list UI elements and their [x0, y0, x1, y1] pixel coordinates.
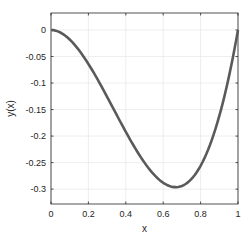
x-tick-label: 0.2 [82, 209, 95, 219]
y-tick-label: -0.2 [30, 131, 46, 141]
x-axis-label: x [142, 223, 147, 234]
x-tick-label: 0.8 [194, 209, 207, 219]
x-tick-label: 1 [235, 209, 240, 219]
x-tick-label: 0.6 [157, 209, 170, 219]
x-tick-label: 0 [48, 209, 53, 219]
y-tick-label: -0.05 [25, 52, 46, 62]
y-tick-label: 0 [41, 25, 46, 35]
y-tick-label: -0.3 [30, 184, 46, 194]
x-tick-label: 0.4 [120, 209, 133, 219]
y-axis-label: y(x) [5, 100, 16, 117]
y-tick-label: -0.15 [25, 105, 46, 115]
y-tick-label: -0.1 [30, 78, 46, 88]
line-chart: 00.20.40.60.810-0.05-0.1-0.15-0.2-0.25-0… [0, 0, 252, 241]
y-tick-label: -0.25 [25, 158, 46, 168]
plot-area [51, 13, 238, 204]
